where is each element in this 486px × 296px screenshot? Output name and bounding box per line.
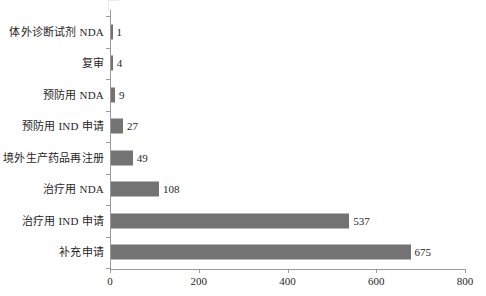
category-label: 治疗用 IND 申请	[22, 215, 104, 226]
x-axis-tick-label: 600	[368, 276, 385, 287]
x-axis-tick	[376, 269, 377, 273]
bar-value-label: 4	[117, 58, 123, 69]
x-axis-tick	[199, 269, 200, 273]
bar-value-label: 1	[117, 26, 123, 37]
y-axis-tick	[106, 237, 110, 238]
bar-row: 复审4	[110, 48, 465, 80]
y-axis-tick	[106, 48, 110, 49]
y-axis-tick	[106, 16, 110, 17]
category-label: 补充申请	[59, 247, 104, 258]
bar	[111, 245, 411, 260]
x-axis-tick	[110, 269, 111, 273]
y-axis-tick	[106, 205, 110, 206]
bar-row: 境外生产药品再注册49	[110, 142, 465, 174]
bar	[111, 24, 113, 39]
bar-row: 预防用 NDA9	[110, 79, 465, 111]
y-axis-tick	[106, 174, 110, 175]
category-label: 预防用 IND 申请	[22, 121, 104, 132]
bar-row: 治疗用 NDA108	[110, 174, 465, 206]
y-axis-tick	[106, 79, 110, 80]
category-label: 治疗用 NDA	[43, 184, 104, 195]
bar-row: 体外诊断试剂 NDA1	[110, 16, 465, 48]
bar-value-label: 537	[353, 215, 370, 226]
bar	[111, 119, 123, 134]
bar-value-label: 108	[163, 184, 180, 195]
x-axis-tick-label: 800	[457, 276, 474, 287]
bar	[111, 56, 113, 71]
bar-row: 预防用 IND 申请27	[110, 111, 465, 143]
bar	[111, 87, 115, 102]
x-axis-tick	[465, 269, 466, 273]
x-axis-tick-label: 200	[191, 276, 208, 287]
category-label: 体外诊断试剂 NDA	[9, 26, 104, 37]
bar-value-label: 675	[415, 247, 432, 258]
plot-area: 体外诊断试剂 NDA1复审4预防用 NDA9预防用 IND 申请27境外生产药品…	[110, 16, 465, 268]
x-axis-tick-label: 400	[279, 276, 296, 287]
bar	[111, 182, 159, 197]
x-axis-tick-label: 0	[107, 276, 113, 287]
bar-value-label: 27	[127, 121, 138, 132]
y-axis-tick	[106, 142, 110, 143]
bar-chart: 体外诊断试剂 NDA1复审4预防用 NDA9预防用 IND 申请27境外生产药品…	[0, 0, 486, 296]
x-axis-tick	[288, 269, 289, 273]
category-label: 境外生产药品再注册	[3, 152, 104, 163]
bar-row: 治疗用 IND 申请537	[110, 205, 465, 237]
bar	[111, 213, 349, 228]
category-label: 预防用 NDA	[43, 89, 104, 100]
bar-value-label: 49	[137, 152, 148, 163]
bar	[111, 150, 133, 165]
y-axis-tick	[106, 111, 110, 112]
bar-value-label: 9	[119, 89, 125, 100]
category-label: 复审	[82, 58, 104, 69]
bar-row: 补充申请675	[110, 237, 465, 269]
